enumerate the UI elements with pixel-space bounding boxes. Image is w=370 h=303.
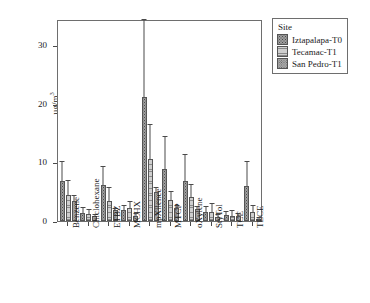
bar-group xyxy=(224,19,241,221)
y-tick-mark xyxy=(53,105,57,106)
error-bar xyxy=(129,202,130,207)
x-tick-label: Benzene xyxy=(71,197,81,228)
legend-swatch-icon xyxy=(277,58,288,69)
y-tick-mark xyxy=(53,222,57,223)
bar-slot xyxy=(224,19,229,221)
error-bar-cap xyxy=(107,187,112,188)
bar-slot xyxy=(189,19,194,221)
y-tick-label: 30 xyxy=(38,40,47,50)
bar-slot xyxy=(80,19,85,221)
error-bar xyxy=(103,167,104,185)
x-tick-label: Chiclohexane xyxy=(91,179,101,228)
bar[interactable] xyxy=(224,215,229,221)
legend-title: Site xyxy=(278,22,342,32)
y-tick-mark xyxy=(53,46,57,47)
bar[interactable] xyxy=(101,185,106,221)
error-bar xyxy=(232,211,233,216)
y-tick-mark xyxy=(53,163,57,164)
bar-slot xyxy=(72,19,77,221)
x-tick-mark xyxy=(149,222,150,226)
legend-swatch-icon xyxy=(277,34,288,45)
legend-label: Tecamac-T1 xyxy=(292,47,337,57)
bar-group xyxy=(244,19,261,221)
error-bar xyxy=(150,125,151,159)
error-bar xyxy=(109,188,110,201)
error-bar xyxy=(62,162,63,181)
error-bar xyxy=(123,206,124,210)
bar-group xyxy=(101,19,118,221)
legend-swatch-icon xyxy=(277,46,288,57)
error-bar-cap xyxy=(162,136,167,137)
bar[interactable] xyxy=(60,181,65,221)
bar-slot xyxy=(236,19,241,221)
bar-slot xyxy=(121,19,126,221)
y-tick-label: 0 xyxy=(43,216,48,226)
x-tick-mark xyxy=(129,222,130,226)
error-bar-cap xyxy=(244,161,249,162)
error-bar xyxy=(88,210,89,214)
legend-entries: Iztapalapa-T0Tecamac-T1San Pedro-T1 xyxy=(277,34,342,69)
x-tick-label: MTCP xyxy=(173,203,183,228)
error-bar-cap xyxy=(101,166,106,167)
bar-slot xyxy=(60,19,65,221)
legend-item[interactable]: Tecamac-T1 xyxy=(277,46,342,57)
y-tick-label: 10 xyxy=(38,157,47,167)
bar-slot xyxy=(142,19,147,221)
error-bar xyxy=(68,181,69,194)
bar-slot xyxy=(195,19,200,221)
error-bar xyxy=(191,185,192,197)
bar-slot xyxy=(113,19,118,221)
bar-slot xyxy=(66,19,71,221)
x-tick-label: TCE xyxy=(235,211,245,228)
x-tick-mark xyxy=(190,222,191,226)
x-tick-label: oXylene xyxy=(194,198,204,229)
x-tick-mark xyxy=(211,222,212,226)
bar-chart: µg/m3 0102030 BenzeneChiclohexaneETBZMCH… xyxy=(0,0,370,303)
x-tick-mark xyxy=(252,222,253,226)
bar[interactable] xyxy=(142,97,147,221)
legend: Site Iztapalapa-T0Tecamac-T1San Pedro-T1 xyxy=(272,18,348,74)
error-bar-cap xyxy=(230,210,235,211)
x-tick-label: TECE xyxy=(255,206,265,229)
legend-label: San Pedro-T1 xyxy=(292,59,342,69)
x-tick-mark xyxy=(231,222,232,226)
error-bar xyxy=(246,162,247,187)
error-bar-cap xyxy=(189,184,194,185)
x-tick-mark xyxy=(88,222,89,226)
bar-slot xyxy=(215,19,220,221)
bar-slot xyxy=(174,19,179,221)
x-tick-mark xyxy=(67,222,68,226)
error-bar-cap xyxy=(66,180,71,181)
error-bar-cap xyxy=(148,124,153,125)
error-bar xyxy=(211,204,212,212)
bar-slot xyxy=(256,19,261,221)
legend-item[interactable]: San Pedro-T1 xyxy=(277,58,342,69)
bar-slot xyxy=(250,19,255,221)
bar-slot xyxy=(183,19,188,221)
y-axis-label-exponent: 3 xyxy=(48,92,55,95)
error-bar xyxy=(82,208,83,213)
bar-slot xyxy=(101,19,106,221)
error-bar-cap xyxy=(168,191,173,192)
bar[interactable] xyxy=(183,181,188,221)
x-tick-mark xyxy=(170,222,171,226)
bar-slot xyxy=(133,19,138,221)
error-bar xyxy=(144,20,145,97)
error-bar xyxy=(185,155,186,181)
bar-slot xyxy=(230,19,235,221)
error-bar-cap xyxy=(60,161,65,162)
bar-group xyxy=(183,19,200,221)
x-tick-label: mpXilence xyxy=(153,189,163,229)
bar-group xyxy=(121,19,138,221)
error-bar xyxy=(170,192,171,200)
legend-item[interactable]: Iztapalapa-T0 xyxy=(277,34,342,45)
error-bar xyxy=(205,207,206,212)
bar-slot xyxy=(209,19,214,221)
error-bar-cap xyxy=(224,211,229,212)
x-tick-label: StyTol xyxy=(214,204,224,228)
error-bar xyxy=(226,212,227,215)
bar-group xyxy=(60,19,77,221)
x-tick-mark xyxy=(108,222,109,226)
error-bar xyxy=(164,137,165,169)
legend-label: Iztapalapa-T0 xyxy=(292,35,342,45)
